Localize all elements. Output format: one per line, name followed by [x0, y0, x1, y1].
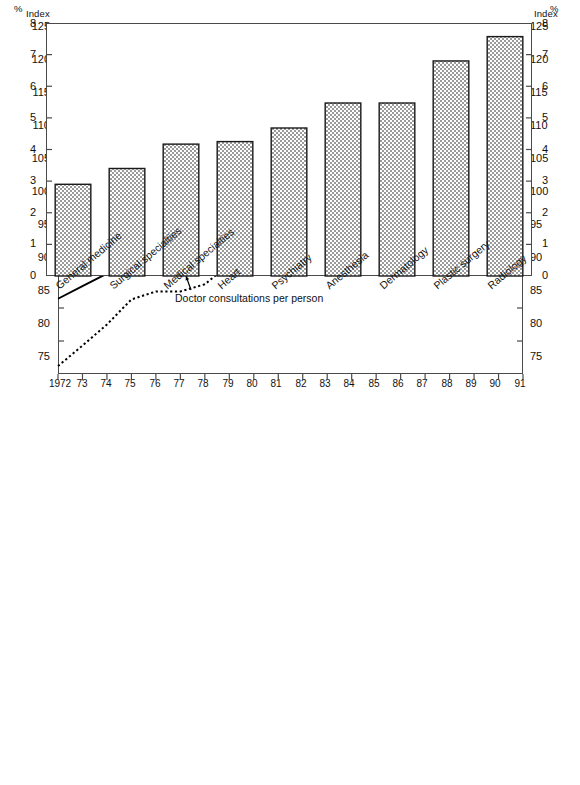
- bottom-ytick-8: 8: [10, 17, 36, 29]
- figure-container: Index Index 1980 = 100 125 120 115 110 1…: [0, 0, 580, 785]
- bottom-ytick-right-4: 4: [542, 143, 568, 155]
- bottom-ytick-3: 3: [10, 174, 36, 186]
- bottom-ytick-right-8: 8: [542, 17, 568, 29]
- bottom-ytick-5: 5: [10, 111, 36, 123]
- top-ytick-right-100: 100: [530, 185, 560, 197]
- bottom-ytick-0: 0: [10, 269, 36, 281]
- top-ytick-right-80: 80: [530, 317, 560, 329]
- annotation-consultations: Doctor consultations per person: [175, 292, 323, 305]
- top-ytick-80: 80: [20, 317, 50, 329]
- bottom-ytick-1: 1: [10, 237, 36, 249]
- top-ytick-75: 75: [20, 350, 50, 362]
- bottom-ytick-4: 4: [10, 143, 36, 155]
- top-ytick-right-90: 90: [530, 251, 560, 263]
- bottom-ytick-right-3: 3: [542, 174, 568, 186]
- bottom-ytick-right-5: 5: [542, 111, 568, 123]
- bottom-right-axis-unit: %: [550, 3, 559, 14]
- top-ytick-right-75: 75: [530, 350, 560, 362]
- bar-chart-panel: % % Growth in the number of services off…: [0, 382, 580, 747]
- top-xtick-91: 91: [500, 378, 540, 389]
- bottom-ytick-6: 6: [10, 80, 36, 92]
- bottom-left-axis-unit: %: [14, 3, 23, 14]
- bottom-ytick-right-2: 2: [542, 206, 568, 218]
- top-ytick-right-85: 85: [530, 284, 560, 296]
- bottom-ytick-right-0: 0: [542, 269, 568, 281]
- bottom-ytick-2: 2: [10, 206, 36, 218]
- bottom-ytick-right-6: 6: [542, 80, 568, 92]
- top-ytick-right-95: 95: [530, 218, 560, 230]
- bottom-ytick-right-1: 1: [542, 237, 568, 249]
- top-ytick-85: 85: [20, 284, 50, 296]
- bottom-ytick-7: 7: [10, 48, 36, 60]
- bottom-ytick-right-7: 7: [542, 48, 568, 60]
